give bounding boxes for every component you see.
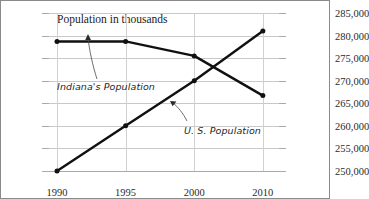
y-tick-right — [279, 81, 286, 82]
y-axis-right-label: 260,000 — [335, 120, 369, 131]
y-tick-left — [42, 58, 49, 59]
annotation-us-population: U. S. Population — [184, 125, 261, 136]
gridline — [49, 58, 279, 59]
y-tick-right — [279, 103, 286, 104]
y-tick-left — [42, 103, 49, 104]
category-gridline — [57, 13, 58, 171]
y-tick-left — [42, 126, 49, 127]
gridline — [49, 148, 279, 149]
y-tick-right — [279, 171, 286, 172]
y-axis-right-label: 285,000 — [335, 8, 369, 19]
y-tick-left — [42, 13, 49, 14]
plot-area: 5,6005,5505,5005,4505,4005,3505,3005,250… — [49, 13, 279, 171]
y-axis-right-label: 275,000 — [335, 53, 369, 64]
x-axis-label: 1990 — [47, 187, 68, 198]
category-gridline — [194, 13, 195, 171]
x-axis-label: 1995 — [115, 187, 136, 198]
y-tick-left — [42, 171, 49, 172]
gridline — [49, 36, 279, 37]
y-tick-right — [279, 36, 286, 37]
x-axis-label: 2010 — [252, 187, 273, 198]
y-tick-left — [42, 36, 49, 37]
x-axis-label: 2000 — [184, 187, 205, 198]
y-axis-right-label: 280,000 — [335, 30, 369, 41]
y-axis-right-label: 255,000 — [335, 143, 369, 154]
y-tick-right — [279, 148, 286, 149]
category-gridline — [263, 13, 264, 171]
gridline — [49, 13, 279, 14]
y-tick-left — [42, 81, 49, 82]
annotation-indiana-population: Indiana's Population — [57, 81, 155, 92]
y-tick-right — [279, 58, 286, 59]
y-axis-right-label: 250,000 — [335, 166, 369, 177]
category-gridline — [126, 13, 127, 171]
y-tick-left — [42, 148, 49, 149]
y-axis-right-label: 270,000 — [335, 75, 369, 86]
y-tick-right — [279, 13, 286, 14]
y-axis-right-label: 265,000 — [335, 98, 369, 109]
y-tick-right — [279, 126, 286, 127]
gridline — [49, 171, 279, 172]
gridline — [49, 103, 279, 104]
